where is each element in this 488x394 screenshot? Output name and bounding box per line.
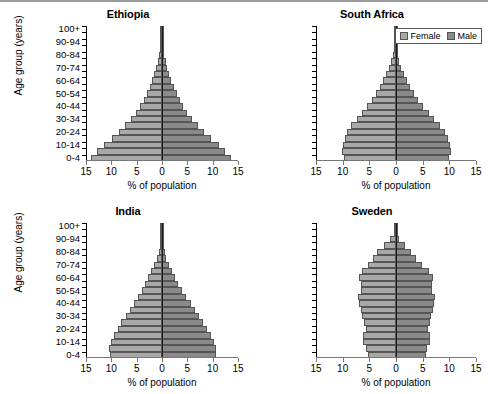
x-tick-label: 0 [393,363,399,375]
bar-male [396,249,411,255]
x-tick [238,358,239,362]
bar-male [162,287,182,293]
x-tick [423,358,424,362]
bar-female [384,242,396,248]
x-tick [316,161,317,165]
y-tick-label: 20-24 [56,324,80,334]
bar-male [396,307,433,313]
bar-female [376,90,396,96]
bar-male [396,332,430,338]
bar-male [162,116,192,122]
panel-title: South Africa [264,8,480,21]
x-axis-label: % of population [316,180,476,191]
bar-male [162,103,183,109]
y-tick-labels: 0-410-1420-2430-3440-4450-5460-6470-7480… [34,223,80,358]
bar-male [396,142,450,148]
y-tick-label: 70-74 [56,260,80,270]
x-axis-label: % of population [86,180,238,191]
bar-male [396,287,432,293]
y-axis-label: Age group (years) [13,197,24,313]
bar-male [162,90,177,96]
y-axis-label: Age group (years) [13,0,24,116]
y-tick-label: 60-64 [56,76,80,86]
bar-male [396,77,407,83]
bar-male [162,84,174,90]
bar-male [396,135,448,141]
bar-female [343,142,396,148]
x-tick-label: 5 [134,363,140,375]
bar-female [97,148,162,154]
bar-male [396,90,414,96]
bar-male [396,281,432,287]
x-tick-label: 5 [134,166,140,178]
y-tick-label: 100+ [59,24,80,34]
zero-line [162,26,163,161]
y-tick-label: 100+ [59,221,80,231]
bar-male [396,116,434,122]
bar-female [377,249,396,255]
bar-male [162,274,175,280]
x-tick-labels: 15105051015 [316,363,476,375]
bar-female [114,332,162,338]
bar-male [162,97,180,103]
bar-male [396,268,429,274]
y-tick-label: 70-74 [56,63,80,73]
x-tick [476,161,477,165]
bar-female [345,135,396,141]
bar-male [396,110,429,116]
bar-male [396,97,418,103]
bar-female [361,307,396,313]
x-tick [162,358,163,362]
bar-male [396,103,423,109]
bar-male [396,319,430,325]
bar-male [162,129,204,135]
panel-india: IndiaAge group (years)0-410-1420-2430-34… [0,197,244,394]
bar-female [125,122,162,128]
y-tick-label: 80-84 [56,247,80,257]
y-tick-label: 20-24 [56,127,80,137]
zero-line [396,26,397,161]
legend-item-female: Female [400,31,440,41]
bar-female [386,71,396,77]
y-tick-label: 30-34 [56,311,80,321]
x-tick-label: 15 [80,166,91,178]
panel-south-africa: South Africa15105051015% of populationFe… [244,0,488,197]
x-tick [187,358,188,362]
x-tick [162,161,163,165]
bar-male [162,319,203,325]
bar-male [162,326,207,332]
legend-item-male: Male [447,31,477,41]
bar-female [147,90,162,96]
bar-female [142,287,162,293]
bar-male [396,148,451,154]
bar-male [396,84,410,90]
x-tick-label: 0 [159,166,165,178]
population-pyramid-figure: EthiopiaAge group (years)0-410-1420-2430… [0,0,488,394]
x-tick [369,358,370,362]
bar-female [148,274,162,280]
bar-male [162,281,178,287]
x-tick-label: 10 [106,166,117,178]
x-tick [369,161,370,165]
bar-female [366,326,396,332]
bar-female [347,129,396,135]
bar-female [104,142,162,148]
panel-ethiopia: EthiopiaAge group (years)0-410-1420-2430… [0,0,244,197]
bar-male [162,122,198,128]
bar-male [162,294,186,300]
bar-male [162,142,219,148]
x-tick [476,358,477,362]
bar-female [363,339,396,345]
x-tick-label: 15 [310,166,321,178]
x-tick [111,161,112,165]
bar-female [362,268,396,274]
bar-female [373,255,396,261]
y-tick-label: 90-94 [56,234,80,244]
x-tick-label: 5 [420,166,426,178]
x-tick [86,161,87,165]
bar-female [366,345,396,351]
bar-female [121,319,162,325]
bar-female [126,313,162,319]
bar-male [162,148,225,154]
x-tick-labels: 15105051015 [86,166,238,178]
